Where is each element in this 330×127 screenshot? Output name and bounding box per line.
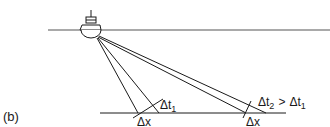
far-delta-t-comparison-label: Δt2>Δt1 — [258, 95, 306, 111]
beam-footprint-diagram: Δt1 Δx Δt2>Δt1 Δx (b) — [0, 0, 330, 127]
panel-label: (b) — [3, 109, 19, 124]
ship-icon — [80, 10, 101, 38]
near-delta-x-label: Δx — [137, 115, 151, 127]
far-beam-rays — [98, 36, 266, 118]
far-delta-x-label: Δx — [246, 115, 260, 127]
near-delta-t-label: Δt1 — [160, 98, 176, 114]
